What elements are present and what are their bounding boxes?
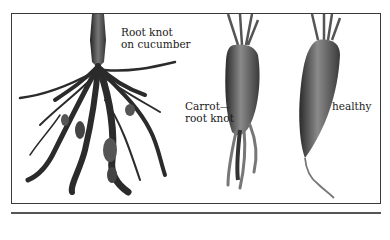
label-carrot-root-knot: Carrot— root knot — [185, 100, 234, 124]
label-healthy: healthy — [332, 100, 372, 112]
label-cucumber-root-knot: Root knot on cucumber — [121, 26, 191, 50]
bottom-divider — [11, 212, 381, 214]
